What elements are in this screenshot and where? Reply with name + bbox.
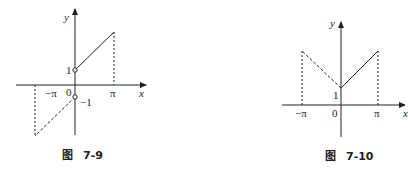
figure-7-10-plot [282, 22, 405, 137]
tick-label-origin: 0 [66, 87, 72, 98]
dashed-segment [35, 97, 75, 136]
figure-7-9-plot [16, 9, 146, 136]
figure-caption-7-9: 图7-9 [62, 150, 103, 161]
solid-segment [75, 32, 114, 70]
tick-label-neg-pi: −π [295, 108, 307, 119]
y-axis-label: y [330, 18, 335, 29]
x-axis-label: x [403, 108, 408, 119]
x-axis-label: x [139, 88, 144, 99]
tick-label-neg-1: −1 [80, 97, 92, 108]
tick-label-pi: π [374, 108, 380, 119]
tick-label-neg-pi: −π [45, 88, 57, 99]
tick-label-1: 1 [333, 90, 339, 101]
dashed-segment [302, 51, 341, 88]
figure-caption-7-10: 图7-10 [325, 151, 374, 162]
caption-number: 7-10 [346, 150, 374, 163]
solid-segment [341, 51, 378, 88]
tick-label-pi: π [110, 88, 116, 99]
caption-prefix: 图 [62, 150, 73, 161]
tick-label-1: 1 [66, 65, 72, 76]
tick-label-origin: 0 [332, 108, 338, 119]
caption-number: 7-9 [83, 149, 103, 162]
open-point-1 [73, 68, 77, 72]
y-axis-label: y [64, 12, 69, 23]
caption-prefix: 图 [325, 151, 336, 162]
open-point-neg-1 [73, 95, 77, 99]
